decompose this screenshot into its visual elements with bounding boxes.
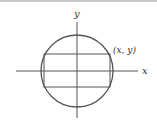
- diagram-canvas: y x (x, y): [0, 0, 157, 129]
- x-axis-label: x: [142, 65, 148, 76]
- point-label: (x, y): [113, 45, 136, 55]
- y-axis-label: y: [73, 8, 80, 19]
